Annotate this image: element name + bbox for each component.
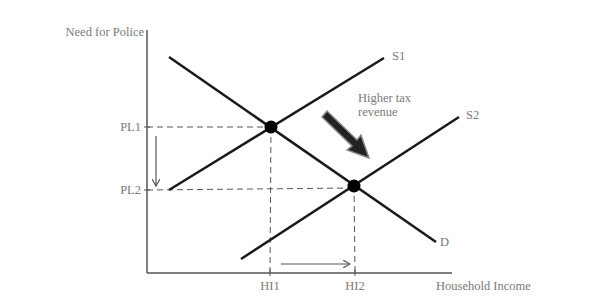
- s1-label: S1: [392, 49, 405, 63]
- equilibrium-point-2: [348, 180, 361, 193]
- pl1-label: PL1: [120, 120, 141, 134]
- demand-curve: [169, 57, 436, 242]
- supply-demand-diagram: Need for Police Household Income PL1 PL2…: [0, 0, 610, 308]
- y-axis-label: Need for Police: [66, 25, 145, 39]
- equilibrium-point-1: [265, 121, 278, 134]
- annotation-line-2: revenue: [358, 105, 398, 119]
- hi1-guide: [270, 127, 271, 273]
- pl2-guide: [147, 188, 354, 190]
- hi2-guide: [354, 186, 355, 273]
- annotation-line-1: Higher tax: [358, 91, 412, 105]
- pl2-label: PL2: [120, 183, 141, 197]
- d-label: D: [440, 235, 449, 249]
- hi2-label: HI2: [345, 279, 364, 293]
- s2-label: S2: [466, 108, 479, 122]
- hi1-label: HI1: [260, 279, 279, 293]
- x-axis-label: Household Income: [436, 279, 531, 293]
